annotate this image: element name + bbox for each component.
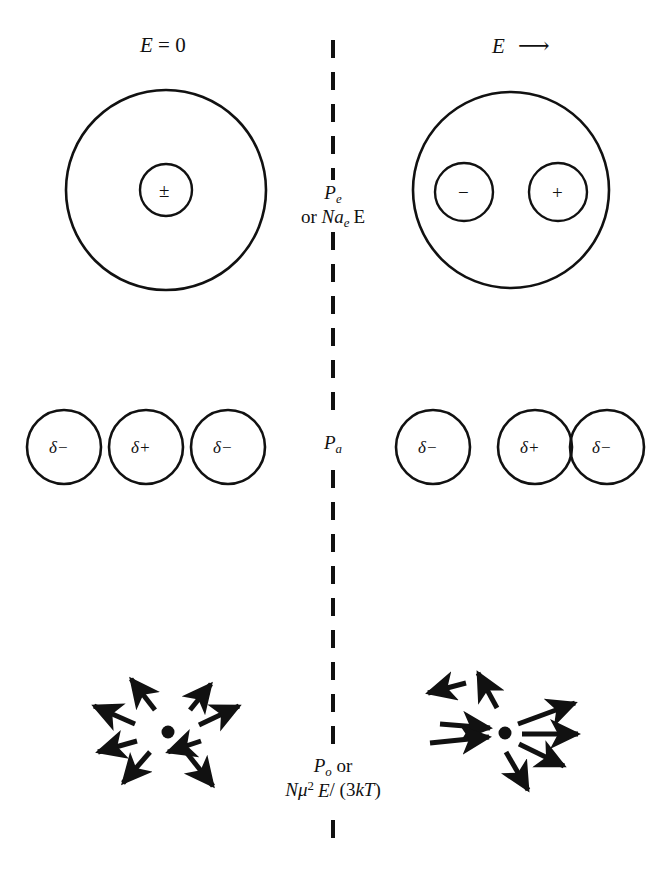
electronic-right-negative-label: − [458,182,469,204]
atomic-right-circle-3-label: δ− [592,438,611,458]
atomic-right-circle-2-label: δ+ [520,438,539,458]
formula-n: N [285,780,298,801]
center-label-electronic-line2: or NaeE [301,206,365,230]
pa-subscript: a [336,441,342,456]
atomic-left-circle-2-label: δ+ [131,438,150,458]
center-label-orientational-line1: Po or [285,755,381,779]
center-label-electronic-line1: Pe [301,182,365,206]
formula-exponent: 2 [307,778,313,793]
po-symbol: P [314,755,326,776]
electronic-left-core-label: ± [159,180,169,202]
center-label-atomic: Pa [324,432,342,456]
pe-symbol: P [324,182,336,203]
center-label-orientational-line2: Nμ2E/ (3kT) [285,779,381,801]
formula-e: E [318,780,330,801]
formula-mu: μ [298,780,308,801]
pe-subscript: e [336,191,342,206]
center-label-orientational: Po or Nμ2E/ (3kT) [285,755,381,802]
electronic-right-atom [413,92,609,288]
electronic-right-positive-label: + [552,182,563,204]
atomic-left-circle-3-label: δ− [213,438,232,458]
formula-k: k [355,780,363,801]
alpha-subscript: e [344,215,350,230]
formula-close-paren: ) [374,780,380,801]
atomic-left-circle-1-label: δ− [49,438,68,458]
or-prefix: or [301,206,322,227]
orientational-right-dipoles [428,673,578,790]
e-field-symbol: E [353,206,365,227]
center-label-electronic: Pe or NaeE [301,182,365,231]
pa-symbol: P [324,432,336,453]
alpha-symbol: a [334,206,344,227]
polarization-mechanisms-figure: E = 0 E ⟶ [0,0,664,877]
orientational-left-dipoles [94,679,239,786]
po-or-suffix: or [332,755,353,776]
formula-t: T [364,780,375,801]
n-symbol: N [322,206,335,227]
formula-divide: / (3 [330,780,356,801]
atomic-right-circle-1-label: δ− [418,438,437,458]
